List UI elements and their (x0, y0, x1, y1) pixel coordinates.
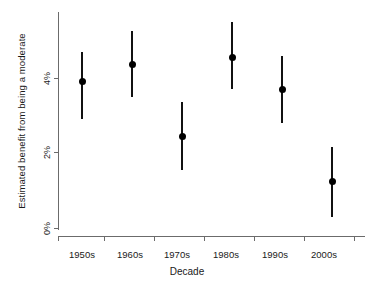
chart-figure: Estimated benefit from being a moderate … (0, 0, 374, 288)
data-point (179, 133, 186, 140)
data-point (79, 78, 86, 85)
data-point (329, 178, 336, 185)
error-bar (81, 52, 82, 120)
plot-area (0, 0, 374, 288)
x-axis-title: Decade (0, 266, 374, 277)
data-point (229, 54, 236, 61)
data-point (279, 86, 286, 93)
data-point (129, 61, 136, 68)
